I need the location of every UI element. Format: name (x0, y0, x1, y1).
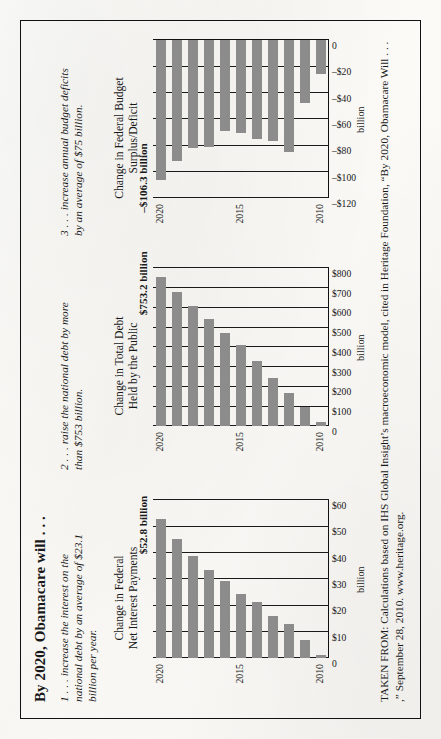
bar (236, 594, 246, 658)
plot-area-budget-deficit: 0–$20–$40–$60–$80–$100–$120201020152020 (153, 40, 329, 198)
bullet-item-3: 3 . . . increase annual budget deficits … (57, 68, 85, 236)
y-tick-label: –$120 (332, 198, 356, 209)
bar (220, 581, 230, 658)
figure-border: By 2020, Obamacare will . . . 1 . . . in… (20, 20, 421, 719)
y-tick-label: 0 (332, 426, 337, 437)
bar (300, 640, 310, 658)
chart-title-line1: Change in Total Debt (113, 260, 127, 472)
bar (172, 540, 182, 659)
rotated-figure-wrapper: By 2020, Obamacare will . . . 1 . . . in… (20, 20, 421, 719)
y-tick-label: $20 (332, 605, 346, 616)
gridline (153, 526, 329, 527)
bar (284, 624, 294, 658)
y-tick-label: –$40 (332, 93, 351, 104)
chart-panel-net-interest: Change in Federal Net Interest Payments … (113, 492, 371, 704)
bar (236, 345, 246, 426)
gridline (153, 287, 329, 288)
bar (204, 40, 214, 147)
bar (284, 40, 294, 152)
y-axis-label-net-interest: billion (355, 566, 366, 593)
bar (188, 556, 198, 658)
bullet-item-2: 2 . . . raise the national debt by more … (57, 302, 85, 470)
y-tick-label: $60 (332, 500, 346, 511)
x-tick-label: 2015 (234, 204, 245, 238)
bar (268, 378, 278, 426)
x-tick-label: 2010 (314, 432, 325, 466)
chart-panel-budget-deficit: Change in Federal Budget Surplus/Deficit… (113, 32, 371, 244)
y-tick-label: $200 (332, 387, 351, 398)
y-tick-label: $600 (332, 308, 351, 319)
y-tick-label: –$80 (332, 145, 351, 156)
y-tick-label: $30 (332, 579, 346, 590)
bar (268, 616, 278, 658)
bar (172, 40, 182, 161)
chart-panels: Change in Federal Net Interest Payments … (113, 26, 371, 710)
y-tick-label: $800 (332, 268, 351, 279)
bar (316, 422, 326, 426)
y-axis-label-total-debt: billion (355, 334, 366, 361)
bar (188, 306, 198, 426)
y-tick-label: $100 (332, 406, 351, 417)
gridline (153, 197, 329, 198)
gridline (153, 267, 329, 268)
y-tick-label: –$20 (332, 66, 351, 77)
bar (156, 519, 166, 658)
bar (316, 40, 326, 74)
chart-title-line1: Change in Federal Budget (113, 32, 127, 244)
bar (220, 40, 230, 131)
x-tick-label: 2015 (234, 664, 245, 698)
plot-area-total-debt: 0$100$200$300$400$500$600$700$8002010201… (153, 268, 329, 426)
chart-annotation-net-interest: $52.8 billion (137, 496, 149, 554)
figure-title: By 2020, Obamacare will . . . (32, 516, 49, 702)
bar (204, 570, 214, 658)
gridline (153, 499, 329, 500)
y-tick-label: $50 (332, 526, 346, 537)
bar (156, 277, 166, 426)
source-note: TAKEN FROM: Calculations based on IHS Gl… (377, 34, 406, 702)
bar (156, 40, 166, 180)
bar (300, 40, 310, 103)
bar (284, 393, 294, 426)
gridline (153, 171, 329, 172)
chart-title-line1: Change in Federal (113, 492, 127, 704)
y-tick-label: $500 (332, 327, 351, 338)
y-tick-label: $40 (332, 553, 346, 564)
bar (252, 602, 262, 658)
chart-annotation-total-debt: $753.2 billion (137, 251, 149, 315)
x-tick-label: 2020 (154, 664, 165, 698)
bar (316, 655, 326, 658)
y-tick-label: –$60 (332, 119, 351, 130)
bullet-list: 1 . . . increase the interest on the nat… (57, 34, 109, 702)
x-tick-label: 2010 (314, 204, 325, 238)
x-tick-label: 2020 (154, 204, 165, 238)
y-tick-label: $300 (332, 367, 351, 378)
y-tick-label: $700 (332, 288, 351, 299)
bar (268, 40, 278, 141)
plot-area-net-interest: 0$10$20$30$40$50$60201020152020 (153, 500, 329, 658)
y-axis-label-budget-deficit: billion (355, 106, 366, 133)
y-tick-label: 0 (332, 658, 337, 669)
bar (236, 40, 246, 133)
bar (204, 319, 214, 426)
bullet-item-1: 1 . . . increase the interest on the nat… (57, 534, 100, 702)
bar (252, 40, 262, 139)
y-tick-label: $10 (332, 632, 346, 643)
chart-panel-total-debt: Change in Total Debt Held by the Public … (113, 260, 371, 472)
x-tick-label: 2020 (154, 432, 165, 466)
bar (300, 407, 310, 426)
y-tick-label: $400 (332, 347, 351, 358)
chart-annotation-budget-deficit: –$106.3 billion (137, 143, 149, 213)
bar (172, 292, 182, 426)
x-tick-label: 2010 (314, 664, 325, 698)
y-tick-label: 0 (332, 40, 337, 51)
x-tick-label: 2015 (234, 432, 245, 466)
bar (220, 333, 230, 426)
bar (188, 40, 198, 148)
y-tick-label: –$100 (332, 172, 356, 183)
bar (252, 361, 262, 426)
